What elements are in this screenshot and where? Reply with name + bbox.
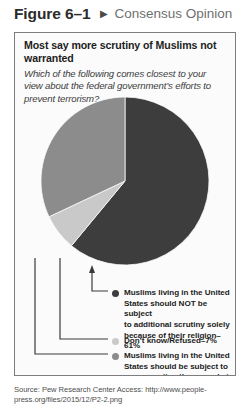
source-citation: Source: Pew Research Center Access: http… [14,385,251,406]
play-triangle-right-icon: ▶ [100,9,108,19]
leader-line-0 [92,272,108,291]
pie-chart [15,96,235,266]
legend-item: Muslims living in the United States shou… [112,351,234,376]
pie-chart-svg [37,96,213,266]
chart-title: Most say more scrutiny of Muslims not wa… [24,39,227,65]
leader-line-1 [60,258,108,339]
legend-item: Don’t know/Refused–7% [112,336,234,347]
legend-color-swatch-icon [112,353,119,360]
leader-line-2 [35,258,108,354]
panel-inner: Most say more scrutiny of Muslims not wa… [15,33,235,375]
legend-color-swatch-icon [112,290,119,297]
chart-legend: Muslims living in the United States shou… [15,258,235,376]
figure-number: Figure 6–1 [14,5,91,23]
pie-slices [41,97,209,265]
legend-color-swatch-icon [112,338,119,345]
figure-caption: Consensus Opinion [115,6,233,21]
legend-item-label: Don’t know/Refused–7% [124,336,217,347]
leader-arrow-0 [89,265,95,273]
legend-item-label: Muslims living in the United States shou… [124,351,233,376]
figure-header: Figure 6–1 ▶ Consensus Opinion [0,0,251,27]
figure-panel: Most say more scrutiny of Muslims not wa… [14,32,236,376]
